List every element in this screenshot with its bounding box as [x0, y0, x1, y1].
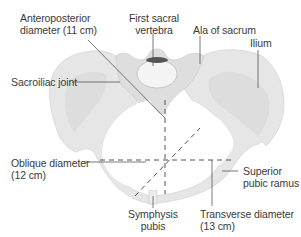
label-sacroiliac-joint: Sacroiliac joint [11, 76, 77, 88]
label-line: diameter (11 cm) [20, 24, 97, 36]
label-ala-of-sacrum: Ala of sacrum [193, 24, 256, 36]
label-line: Symphysis [124, 208, 182, 220]
vertebral-canal [146, 57, 168, 63]
label-line: Superior [243, 165, 299, 177]
label-symphysis-pubis: Symphysis pubis [124, 208, 182, 232]
label-line: (13 cm) [200, 220, 294, 232]
label-superior-pubic-ramus: Superior pubic ramus [243, 165, 299, 189]
label-line: Anteroposterior [20, 12, 97, 24]
label-first-sacral-vertebra: First sacral vertebra [125, 12, 183, 36]
label-transverse-diameter: Transverse diameter (13 cm) [200, 208, 294, 232]
label-line: Ilium [250, 37, 272, 49]
label-line: First sacral [125, 12, 183, 24]
label-line: pubic ramus [243, 177, 299, 189]
label-line: pubis [124, 220, 182, 232]
label-line: Ala of sacrum [193, 24, 256, 36]
label-line: (12 cm) [11, 169, 89, 181]
label-line: Oblique diameter [11, 157, 89, 169]
label-oblique-diameter: Oblique diameter (12 cm) [11, 157, 89, 181]
first-sacral-vertebra-body [137, 60, 177, 88]
label-line: vertebra [125, 24, 183, 36]
label-line: Transverse diameter [200, 208, 294, 220]
label-anteroposterior-diameter: Anteroposterior diameter (11 cm) [20, 12, 97, 36]
label-ilium: Ilium [250, 37, 272, 49]
label-line: Sacroiliac joint [11, 76, 77, 88]
pelvis-diagram: Anteroposterior diameter (11 cm) First s… [0, 0, 301, 237]
